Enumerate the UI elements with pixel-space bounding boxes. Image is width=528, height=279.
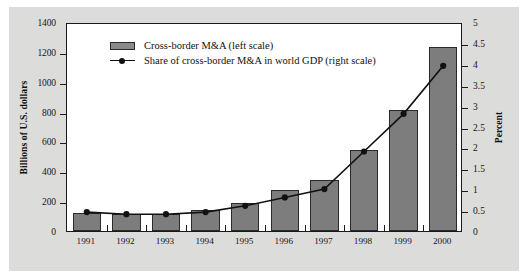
y-left-tick-label-1400: 1400: [37, 18, 56, 28]
y-left-tick-mark-200: [60, 203, 67, 204]
y-left-tick-label-400: 400: [42, 167, 56, 177]
y-right-tick-label-0: 0: [473, 227, 478, 237]
y-right-tick-label-2.5: 2.5: [473, 123, 485, 133]
y-right-tick-label-1.5: 1.5: [473, 164, 485, 174]
y-left-tick-mark-1200: [60, 54, 67, 55]
legend-label-bars: Cross-border M&A (left scale): [144, 40, 273, 51]
legend-label-line: Share of cross-border M&A in world GDP (…: [144, 55, 376, 66]
y-left-tick-label-800: 800: [42, 108, 56, 118]
x-tick-8: [384, 225, 385, 231]
y-right-tick-label-3: 3: [473, 102, 478, 112]
y-right-tick-label-2: 2: [473, 143, 478, 153]
x-label-1999: 1999: [393, 236, 411, 246]
y-right-tick-mark-1: [461, 191, 468, 192]
legend-item-line: Share of cross-border M&A in world GDP (…: [110, 53, 376, 68]
y-left-tick-label-0: 0: [51, 227, 56, 237]
y-axis-right-title: Percent: [492, 23, 506, 232]
x-label-1993: 1993: [156, 236, 174, 246]
bar-1995: [231, 203, 260, 231]
bar-1994: [191, 210, 220, 231]
bar-1992: [112, 214, 141, 231]
y-right-tick-mark-4: [461, 66, 468, 67]
x-label-1994: 1994: [195, 236, 213, 246]
y-right-tick-mark-0.5: [461, 212, 468, 213]
x-tick-3: [186, 225, 187, 231]
x-label-1998: 1998: [354, 236, 372, 246]
legend-item-bars: Cross-border M&A (left scale): [110, 38, 376, 53]
y-right-tick-mark-2.5: [461, 129, 468, 130]
bar-1998: [350, 150, 379, 231]
y-right-tick-mark-1.5: [461, 170, 468, 171]
y-right-tick-label-5: 5: [473, 18, 478, 28]
y-left-tick-label-200: 200: [42, 197, 56, 207]
x-tick-1: [107, 225, 108, 231]
x-tick-6: [305, 225, 306, 231]
x-tick-4: [225, 225, 226, 231]
y-right-tick-label-4: 4: [473, 60, 478, 70]
y-left-tick-mark-400: [60, 173, 67, 174]
x-label-1995: 1995: [235, 236, 253, 246]
bar-1991: [73, 213, 102, 231]
y-axis-right-title-text: Percent: [494, 112, 505, 143]
y-left-tick-mark-1000: [60, 84, 67, 85]
y-left-tick-label-1000: 1000: [37, 78, 56, 88]
chart-figure: Billions of U.S. dollars Percent 0200400…: [0, 0, 528, 279]
x-label-1997: 1997: [314, 236, 332, 246]
bar-1999: [389, 110, 418, 231]
chart-legend: Cross-border M&A (left scale) Share of c…: [110, 38, 376, 68]
y-left-tick-mark-800: [60, 114, 67, 115]
y-right-tick-mark-2: [461, 149, 468, 150]
x-tick-5: [265, 225, 266, 231]
y-right-tick-mark-3.5: [461, 87, 468, 88]
bar-1993: [152, 214, 181, 231]
y-right-tick-label-0.5: 0.5: [473, 206, 485, 216]
y-left-tick-label-600: 600: [42, 137, 56, 147]
y-right-tick-label-3.5: 3.5: [473, 81, 485, 91]
y-right-tick-mark-4.5: [461, 45, 468, 46]
y-axis-left-title-text: Billions of U.S. dollars: [19, 81, 30, 175]
x-label-1992: 1992: [116, 236, 134, 246]
y-right-tick-label-1: 1: [473, 185, 478, 195]
y-left-tick-mark-600: [60, 143, 67, 144]
y-right-tick-label-4.5: 4.5: [473, 39, 485, 49]
y-axis-left-title: Billions of U.S. dollars: [17, 23, 31, 232]
legend-bar-swatch-icon: [110, 42, 135, 50]
x-tick-9: [423, 225, 424, 231]
bar-1996: [271, 190, 300, 231]
legend-line-marker-icon: [110, 56, 135, 65]
x-label-1996: 1996: [275, 236, 293, 246]
x-tick-7: [344, 225, 345, 231]
bar-2000: [429, 47, 458, 231]
x-label-1991: 1991: [77, 236, 95, 246]
y-left-tick-label-1200: 1200: [37, 48, 56, 58]
x-label-2000: 2000: [433, 236, 451, 246]
x-tick-2: [146, 225, 147, 231]
bar-1997: [310, 180, 339, 231]
y-right-tick-mark-3: [461, 108, 468, 109]
